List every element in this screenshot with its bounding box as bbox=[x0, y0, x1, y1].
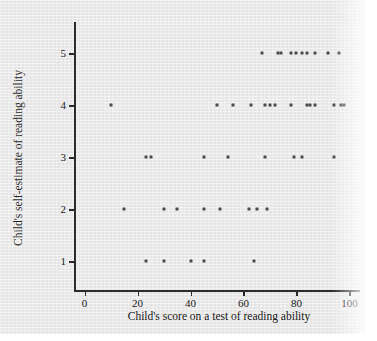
figure-page: 12345 020406080100 Child's score on a te… bbox=[0, 0, 377, 341]
data-point bbox=[176, 208, 179, 211]
data-point bbox=[253, 260, 256, 263]
data-point bbox=[295, 52, 298, 55]
x-tick-0 bbox=[85, 290, 87, 296]
data-point bbox=[255, 208, 258, 211]
data-point bbox=[300, 156, 303, 159]
data-point bbox=[250, 104, 253, 107]
data-point bbox=[306, 52, 309, 55]
data-point bbox=[300, 52, 303, 55]
data-point bbox=[308, 104, 311, 107]
data-point bbox=[274, 104, 277, 107]
data-point bbox=[343, 104, 346, 107]
data-point bbox=[290, 52, 293, 55]
y-tick-3 bbox=[69, 157, 75, 159]
data-point bbox=[266, 208, 269, 211]
y-axis-title-text: Child's self-estimate of reading ability bbox=[12, 70, 24, 246]
data-point bbox=[216, 104, 219, 107]
x-tick-label-20: 20 bbox=[132, 298, 143, 309]
data-point bbox=[231, 104, 234, 107]
x-axis-line bbox=[74, 290, 360, 292]
data-point bbox=[332, 156, 335, 159]
x-tick-label-100: 100 bbox=[341, 298, 358, 309]
x-tick-20 bbox=[138, 290, 140, 296]
data-point bbox=[263, 156, 266, 159]
data-point bbox=[268, 104, 271, 107]
data-point bbox=[263, 104, 266, 107]
x-tick-40 bbox=[191, 290, 193, 296]
data-point bbox=[247, 208, 250, 211]
scatter-plot-axes: 12345 020406080100 bbox=[74, 22, 360, 292]
data-point bbox=[226, 156, 229, 159]
data-point bbox=[337, 52, 340, 55]
data-point bbox=[292, 156, 295, 159]
y-tick-4 bbox=[69, 105, 75, 107]
data-point bbox=[261, 52, 264, 55]
x-tick-60 bbox=[243, 290, 245, 296]
y-tick-label-2: 2 bbox=[61, 204, 67, 215]
x-tick-label-0: 0 bbox=[82, 298, 88, 309]
x-tick-label-40: 40 bbox=[185, 298, 196, 309]
data-point bbox=[202, 156, 205, 159]
data-point bbox=[202, 208, 205, 211]
y-tick-label-3: 3 bbox=[61, 152, 67, 163]
data-point bbox=[313, 104, 316, 107]
data-point bbox=[290, 104, 293, 107]
data-point bbox=[149, 156, 152, 159]
y-tick-label-4: 4 bbox=[61, 100, 67, 111]
data-point bbox=[163, 208, 166, 211]
data-point bbox=[123, 208, 126, 211]
y-tick-label-5: 5 bbox=[61, 48, 67, 59]
x-tick-100 bbox=[349, 290, 351, 296]
y-tick-5 bbox=[69, 53, 75, 55]
data-point bbox=[110, 104, 113, 107]
data-point bbox=[279, 52, 282, 55]
data-point bbox=[163, 260, 166, 263]
plot-area bbox=[76, 22, 360, 290]
y-tick-1 bbox=[69, 261, 75, 263]
x-tick-80 bbox=[296, 290, 298, 296]
data-point bbox=[218, 208, 221, 211]
data-point bbox=[332, 104, 335, 107]
y-tick-label-1: 1 bbox=[61, 256, 67, 267]
data-point bbox=[144, 156, 147, 159]
y-axis-title: Child's self-estimate of reading ability bbox=[10, 30, 26, 285]
data-point bbox=[144, 260, 147, 263]
data-point bbox=[313, 52, 316, 55]
x-tick-label-60: 60 bbox=[238, 298, 249, 309]
data-point bbox=[189, 260, 192, 263]
y-tick-2 bbox=[69, 209, 75, 211]
x-axis-title: Child's score on a test of reading abili… bbox=[74, 310, 364, 322]
data-point bbox=[327, 52, 330, 55]
x-tick-label-80: 80 bbox=[291, 298, 302, 309]
data-point bbox=[202, 260, 205, 263]
